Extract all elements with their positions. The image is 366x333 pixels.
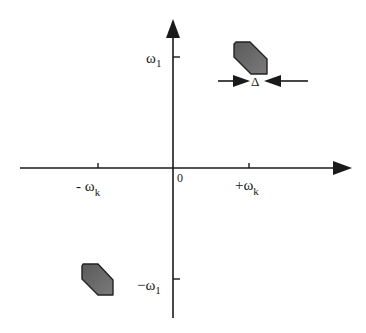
passband-region-upper-right	[234, 42, 267, 74]
width-marker: Δ	[218, 74, 308, 89]
passband-region-lower-left	[82, 264, 113, 295]
arrow-right-icon	[233, 75, 250, 87]
axis-arrow-up-icon	[166, 19, 180, 38]
label-pos-wk: +ωk	[235, 177, 259, 197]
label-pos-w1: ω1	[146, 50, 161, 69]
horizontal-axis	[20, 161, 352, 175]
delta-label: Δ	[251, 74, 259, 89]
label-neg-wk: - ωk	[76, 178, 101, 198]
frequency-diagram: 0 - ωk +ωk ω1 −ω1 Δ	[0, 0, 366, 333]
axis-arrow-right-icon	[333, 161, 352, 175]
arrow-left-icon	[264, 75, 281, 87]
origin-label: 0	[177, 171, 183, 185]
label-neg-w1: −ω1	[137, 277, 161, 296]
